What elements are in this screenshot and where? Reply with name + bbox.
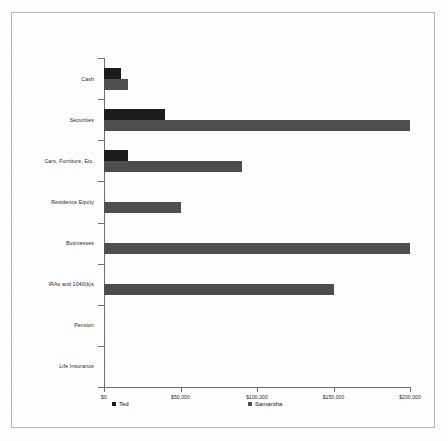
- x-axis-tick: [104, 387, 105, 392]
- scan-artifact-strip: · · · · · ·: [0, 0, 448, 10]
- x-axis-tick-label: $50,000: [171, 394, 190, 400]
- bar-ted: [104, 109, 165, 120]
- legend-swatch-icon-samantha: [248, 402, 252, 406]
- y-axis-tick: [98, 140, 104, 141]
- y-axis-tick: [98, 181, 104, 182]
- category-label: Businesses: [0, 240, 94, 246]
- category-label: Pension: [0, 322, 94, 328]
- category-label: Cash: [0, 76, 94, 82]
- legend-swatch-icon-ted: [112, 402, 116, 406]
- y-axis-tick: [98, 264, 104, 265]
- x-axis-tick-label: $200,000: [399, 394, 421, 400]
- chart-legend: Ted Samantha: [12, 401, 434, 417]
- x-axis-tick-label: $0: [101, 394, 107, 400]
- y-axis-line: [104, 58, 105, 387]
- bar-samantha: [104, 284, 334, 295]
- legend-item-samantha[interactable]: Samantha: [248, 401, 282, 407]
- x-axis-tick: [257, 387, 258, 392]
- legend-label-ted: Ted: [119, 401, 129, 407]
- y-axis-tick: [98, 346, 104, 347]
- category-label: Residence Equity: [0, 199, 94, 205]
- x-axis-tick: [410, 387, 411, 392]
- y-axis-tick: [98, 305, 104, 306]
- x-axis-tick-label: $150,000: [323, 394, 345, 400]
- bar-ted: [104, 150, 128, 161]
- bar-samantha: [104, 161, 242, 172]
- x-axis-tick: [334, 387, 335, 392]
- x-axis-tick: [181, 387, 182, 392]
- bar-ted: [104, 68, 121, 79]
- category-label: Cars, Furniture, Etc.: [0, 158, 94, 164]
- y-axis-tick: [98, 58, 104, 59]
- legend-item-ted[interactable]: Ted: [112, 401, 129, 407]
- document-page-frame: CashSecuritiesCars, Furniture, Etc.Resid…: [11, 12, 435, 428]
- category-label: Life Insurance: [0, 363, 94, 369]
- x-axis-tick-label: $100,000: [246, 394, 268, 400]
- legend-label-samantha: Samantha: [255, 401, 282, 407]
- category-label: IRAs and 1040(k)s: [0, 281, 94, 287]
- bar-samantha: [104, 202, 181, 213]
- y-axis-tick: [98, 223, 104, 224]
- y-axis-tick: [98, 99, 104, 100]
- bar-samantha: [104, 243, 410, 254]
- bar-samantha: [104, 79, 128, 90]
- category-label: Securities: [0, 117, 94, 123]
- bar-samantha: [104, 120, 410, 131]
- bar-chart: CashSecuritiesCars, Furniture, Etc.Resid…: [12, 13, 434, 427]
